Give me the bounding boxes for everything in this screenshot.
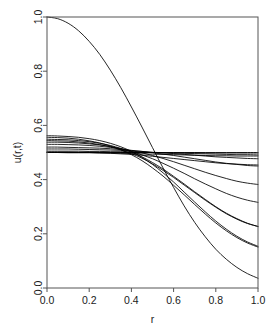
y-tick-label: 0.2	[32, 226, 44, 241]
chart-figure: 0.00.20.40.60.81.0 0.00.20.40.60.81.0 r …	[0, 0, 273, 333]
y-axis-title: u(r,t)	[11, 142, 23, 164]
y-tick-label: 0.4	[32, 172, 44, 187]
x-tick-label: 0.6	[166, 294, 181, 306]
y-tick-label: 0.6	[32, 118, 44, 133]
x-tick-label: 1.0	[251, 294, 266, 306]
x-tick-label: 0.4	[124, 294, 139, 306]
y-tick-label: 0.8	[32, 64, 44, 79]
y-tick-label: 1.0	[32, 10, 44, 25]
y-tick-label: 0.0	[32, 281, 44, 296]
x-axis-title: r	[151, 313, 155, 325]
x-tick-label: 0.8	[208, 294, 223, 306]
x-tick-label: 0.2	[82, 294, 97, 306]
line-chart: 0.00.20.40.60.81.0 0.00.20.40.60.81.0 r …	[0, 0, 273, 333]
